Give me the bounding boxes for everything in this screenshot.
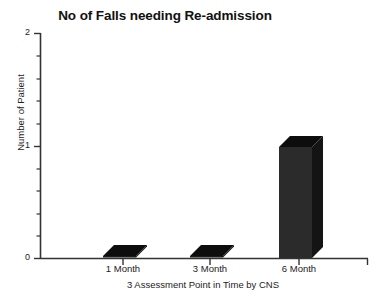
chart-container: No of Falls needing Re-admission Number … (0, 0, 388, 299)
x-axis (41, 259, 369, 266)
bar-1-month (103, 245, 147, 258)
y-axis (34, 33, 41, 259)
plot-area (0, 0, 388, 299)
bar-6-month (279, 136, 323, 258)
bar-3-month (190, 245, 234, 258)
